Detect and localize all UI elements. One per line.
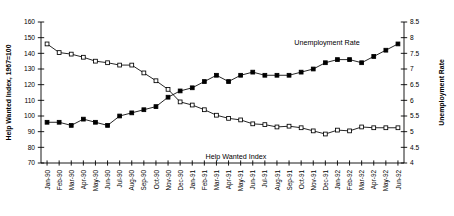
x-axis-tick-label: Mar-90	[68, 170, 75, 191]
y-axis-left-tick-label: 120	[24, 81, 35, 88]
data-point-marker	[130, 63, 134, 67]
data-point-marker	[57, 120, 61, 124]
data-point-marker	[360, 125, 364, 129]
data-point-marker	[372, 126, 376, 130]
data-point-marker	[251, 122, 255, 126]
annotation-layer: Unemployment RateHelp Wanted Index	[206, 38, 360, 161]
x-axis-tick-label: Sep-91	[286, 170, 294, 191]
y-axis-right-tick-label: 5	[410, 128, 414, 135]
data-point-marker	[372, 55, 376, 59]
y-axis-left-tick-label: 130	[24, 65, 35, 72]
y-axis-left-tick-label: 160	[24, 18, 35, 25]
series-layer	[45, 42, 400, 136]
data-point-marker	[251, 70, 255, 74]
data-point-marker	[142, 108, 146, 112]
data-point-marker	[118, 114, 122, 118]
x-axis-tick-label: May-92	[382, 170, 390, 192]
data-point-marker	[142, 71, 146, 75]
x-axis-tick-label: Oct-90	[153, 170, 160, 190]
data-point-marker	[348, 129, 352, 133]
x-axis-tick-label: Apr-90	[80, 170, 88, 190]
y-axis-right-tick-label: 6	[410, 97, 414, 104]
data-point-marker	[360, 61, 364, 65]
x-axis-tick-label: Aug-90	[128, 170, 136, 191]
data-point-marker	[263, 123, 267, 127]
x-axis-tick-label: Jun-92	[395, 170, 402, 190]
data-point-marker	[348, 58, 352, 62]
data-point-marker	[190, 86, 194, 90]
x-axis-tick-label: Feb-92	[346, 170, 353, 191]
y-axis-right-tick-label: 5.5	[410, 112, 419, 119]
x-axis-tick-label: Feb-90	[56, 170, 63, 191]
y-axis-right-tick-label: 4	[410, 159, 414, 166]
y-axis-right-tick-label: 7.5	[410, 50, 419, 57]
series-line-unemployment	[47, 44, 398, 125]
data-point-marker	[178, 89, 182, 93]
x-axis-tick-label: Apr-92	[370, 170, 378, 190]
data-point-marker	[239, 118, 243, 122]
y-axis-left-tick-label: 110	[24, 97, 35, 104]
x-axis-tick-label: May-91	[237, 170, 245, 192]
y-axis-left-tick-label: 70	[28, 159, 36, 166]
data-point-marker	[57, 51, 61, 55]
data-point-marker	[154, 105, 158, 109]
x-axis-tick-label: Apr-91	[225, 170, 233, 190]
x-axis-tick-label: Jun-91	[249, 170, 256, 190]
data-point-marker	[81, 55, 85, 59]
x-axis-tick-label: May-90	[92, 170, 100, 192]
data-point-marker	[227, 116, 231, 120]
series-line-help-wanted	[47, 44, 398, 134]
data-point-marker	[215, 73, 219, 77]
data-point-marker	[178, 100, 182, 104]
data-point-marker	[94, 59, 98, 63]
data-point-marker	[202, 108, 206, 112]
series-annotation-label: Unemployment Rate	[294, 38, 360, 47]
y-axis-left-title: Help Wanted Index, 1967=100	[5, 44, 13, 140]
x-axis-tick-label: Feb-91	[201, 170, 208, 191]
data-point-marker	[323, 132, 327, 136]
y-axis-right-title: Unemployment Rate	[438, 59, 446, 126]
x-axis-tick-label: Jun-90	[104, 170, 111, 190]
data-point-marker	[263, 73, 267, 77]
data-point-marker	[287, 124, 291, 128]
data-point-marker	[396, 126, 400, 130]
x-axis-tick-label: Aug-91	[274, 170, 282, 191]
data-point-marker	[323, 61, 327, 65]
x-axis-tick-label: Nov-90	[165, 170, 172, 191]
data-point-marker	[311, 129, 315, 133]
data-point-marker	[166, 95, 170, 99]
data-point-marker	[106, 124, 110, 128]
data-point-marker	[94, 120, 98, 124]
x-axis-tick-label: Jan-90	[44, 170, 51, 190]
data-point-marker	[299, 126, 303, 130]
data-point-marker	[311, 67, 315, 71]
data-point-marker	[130, 111, 134, 115]
data-point-marker	[154, 79, 158, 83]
x-axis-tick-label: Jan-92	[334, 170, 341, 190]
x-axis-tick-label: Jan-91	[189, 170, 196, 190]
data-point-marker	[336, 58, 340, 62]
data-point-marker	[202, 80, 206, 84]
data-point-marker	[239, 73, 243, 77]
x-axis-tick-label: Jul-90	[116, 170, 123, 188]
data-point-marker	[275, 125, 279, 129]
x-axis-tick-label: Oct-91	[298, 170, 305, 190]
data-point-marker	[81, 117, 85, 121]
y-axis-right-tick-label: 8	[410, 34, 414, 41]
chart-container: 708090100110120130140150160 44.555.566.5…	[0, 0, 454, 216]
data-point-marker	[190, 103, 194, 107]
data-point-marker	[118, 63, 122, 67]
dual-axis-line-chart: 708090100110120130140150160 44.555.566.5…	[0, 0, 454, 216]
data-point-marker	[227, 80, 231, 84]
series-annotation-label: Help Wanted Index	[206, 152, 267, 161]
y-axis-right-tick-label: 7	[410, 65, 414, 72]
data-point-marker	[45, 120, 49, 124]
y-axis-left-tick-label: 100	[24, 112, 35, 119]
x-axis-tick-label: Jul-91	[261, 170, 268, 188]
data-point-marker	[45, 42, 49, 46]
y-axis-left-tick-label: 150	[24, 34, 35, 41]
y-axis-right-tick-label: 4.5	[410, 144, 419, 151]
data-point-marker	[287, 73, 291, 77]
y-axis-right-tick-label: 6.5	[410, 81, 419, 88]
data-point-marker	[166, 87, 170, 91]
